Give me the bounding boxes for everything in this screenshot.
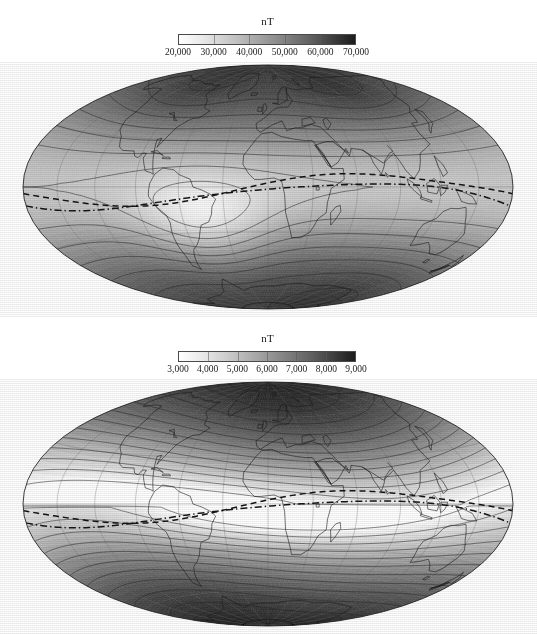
scan-grain-top xyxy=(0,62,537,317)
colorbar-bottom xyxy=(178,351,356,362)
colorbar-top xyxy=(178,34,356,45)
colorbar-tick-label: 20,000 xyxy=(165,46,191,58)
colorbar-ticks-top xyxy=(179,35,355,44)
colorbar-tick-label: 8,000 xyxy=(316,363,337,375)
colorbar-tick-label: 30,000 xyxy=(201,46,227,58)
map-secondary-field xyxy=(0,379,537,634)
colorbar-tick-label: 7,000 xyxy=(286,363,307,375)
colorbar-tick-label: 5,000 xyxy=(227,363,248,375)
map-total-intensity xyxy=(0,62,537,317)
colorbar-tick-label: 4,000 xyxy=(197,363,218,375)
colorbar-title-top-text: nT xyxy=(261,15,274,27)
colorbar-tick-label: 3,000 xyxy=(167,363,188,375)
colorbar-title-bottom: nT xyxy=(0,333,537,344)
colorbar-tick-label: 40,000 xyxy=(236,46,262,58)
colorbar-tick-label: 6,000 xyxy=(256,363,277,375)
panel-secondary-field: nT 3,0004,0005,0006,0007,0008,0009,000 xyxy=(0,317,537,634)
colorbar-tick-label: 9,000 xyxy=(345,363,366,375)
colorbar-tick-labels-bottom: 3,0004,0005,0006,0007,0008,0009,000 xyxy=(0,363,537,375)
colorbar-tick-label: 70,000 xyxy=(343,46,369,58)
scan-grain-bottom xyxy=(0,379,537,634)
colorbar-block-bottom: nT 3,0004,0005,0006,0007,0008,0009,000 xyxy=(0,317,537,379)
colorbar-ticks-bottom xyxy=(179,352,355,361)
colorbar-tick-label: 50,000 xyxy=(272,46,298,58)
colorbar-tick-label: 60,000 xyxy=(307,46,333,58)
colorbar-title-top: nT xyxy=(0,16,537,27)
colorbar-block-top: nT 20,00030,00040,00050,00060,00070,000 xyxy=(0,0,537,62)
colorbar-tick-labels-top: 20,00030,00040,00050,00060,00070,000 xyxy=(0,46,537,58)
panel-total-intensity: nT 20,00030,00040,00050,00060,00070,000 xyxy=(0,0,537,317)
colorbar-title-bottom-text: nT xyxy=(261,332,274,344)
